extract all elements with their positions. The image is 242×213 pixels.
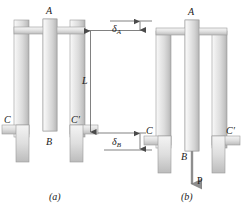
delta-a-label: δA xyxy=(112,24,121,36)
length-dimension-label: L xyxy=(82,76,88,86)
panel-b-right-bar xyxy=(212,31,227,148)
panel-a-label-C: C xyxy=(4,115,11,125)
panel-a-caption: (a) xyxy=(49,192,61,202)
panel-a-right-support-foot xyxy=(70,125,98,162)
panel-a-label-B: B xyxy=(46,137,52,147)
figure-svg xyxy=(0,0,242,213)
delta-b-subscript: B xyxy=(117,141,121,149)
panel-b-caption: (b) xyxy=(181,192,193,202)
panel-b-label-C-prime: C′ xyxy=(226,126,235,136)
panel-a-label-C-prime: C′ xyxy=(71,115,80,125)
panel-a-left-support-foot xyxy=(2,125,29,162)
panel-b-label-C: C xyxy=(146,126,153,136)
delta-a-subscript: A xyxy=(117,28,121,36)
panel-a-label-A: A xyxy=(46,6,52,16)
panel-b-label-A: A xyxy=(188,7,194,17)
figure-container: A B C C′ L (a) A B C C′ P (b) δA δB xyxy=(0,0,242,213)
delta-b-label: δB xyxy=(112,137,121,149)
panel-a-left-bar xyxy=(14,20,29,137)
panel-b-assembly xyxy=(144,20,240,173)
panel-b-left-bar xyxy=(156,31,171,148)
panel-b-middle-bar-front xyxy=(185,20,199,151)
panel-a-middle-bar-front xyxy=(43,19,57,131)
panel-b-label-B: B xyxy=(181,152,187,162)
panel-b-left-support-foot xyxy=(144,136,171,173)
force-p-label: P xyxy=(197,176,203,186)
panel-b-right-support-foot xyxy=(212,136,240,173)
